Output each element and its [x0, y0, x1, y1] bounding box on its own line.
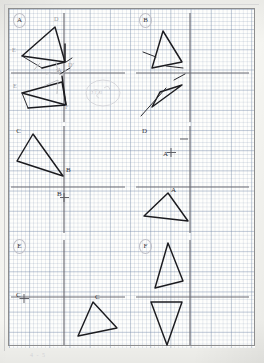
- panel-label-B: B: [139, 13, 152, 28]
- vertex-label-F: F: [65, 103, 69, 110]
- vertex-label-E-C: C: [95, 293, 100, 301]
- doodle-scribble: 5 r d: [90, 88, 102, 95]
- vertex-label-A: A: [57, 66, 62, 73]
- vertex-label-D2: D': [68, 61, 74, 68]
- vertex-label-D-A: A: [171, 186, 176, 194]
- vertex-label-E2: E: [13, 82, 17, 89]
- page-border: [8, 8, 255, 346]
- vertex-label-E: E: [12, 46, 16, 53]
- bottom-scrawl: 4 - 5: [30, 352, 46, 358]
- panel-label-F: F: [139, 239, 152, 254]
- panel-label-A: A: [13, 13, 26, 28]
- vertex-label-C-B: B: [66, 166, 71, 174]
- panel-label-C: C: [13, 125, 24, 138]
- worksheet-page: A B C D E F D E D' A E F 5 r d B B A A C…: [0, 0, 264, 363]
- vertex-label-D: D: [54, 15, 59, 22]
- panel-label-E: E: [13, 239, 26, 254]
- panel-label-D: D: [139, 125, 150, 138]
- point-label-E-C: C: [16, 291, 21, 299]
- point-label-C-B: B: [57, 190, 62, 198]
- point-label-D-A: A: [163, 150, 168, 158]
